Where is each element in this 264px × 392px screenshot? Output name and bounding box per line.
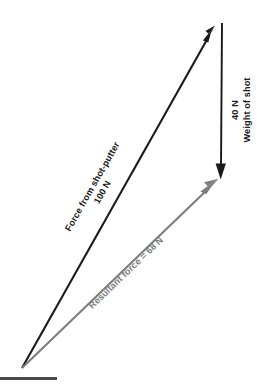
weight-label-line1: 40 N [230, 100, 240, 120]
force-vector-diagram: Force from shot-putter 100 N 40 N Weight… [0, 0, 264, 392]
vector-diagram-canvas: Force from shot-putter 100 N 40 N Weight… [0, 0, 264, 392]
diagram-background [0, 0, 264, 392]
weight-shaft [221, 23, 222, 167]
weight-label-line2: Weight of shot [242, 77, 252, 142]
